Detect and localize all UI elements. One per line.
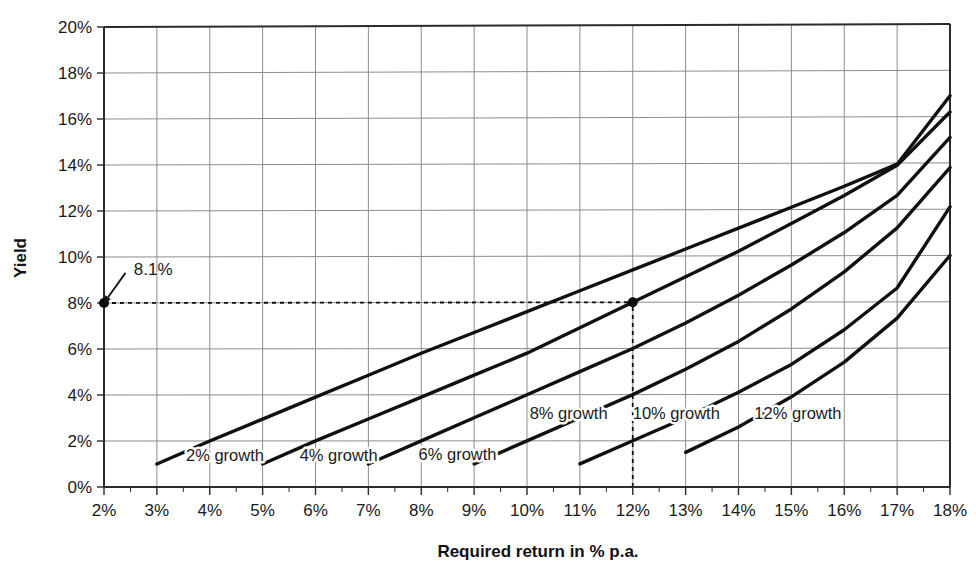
- x-tick-label: 11%: [563, 501, 596, 520]
- series-label-5: 10% growth: [633, 404, 720, 422]
- annotation-label: 8.1%: [134, 260, 173, 279]
- y-tick-label: 8%: [67, 294, 92, 313]
- x-tick-label: 17%: [880, 501, 914, 520]
- x-tick-label: 10%: [510, 501, 544, 520]
- series-label-2: 4% growth: [300, 446, 378, 464]
- series-label-4: 8% growth: [530, 404, 608, 422]
- y-tick-label: 10%: [58, 248, 92, 267]
- series-label-3: 6% growth: [419, 445, 497, 463]
- x-tick-label: 7%: [356, 501, 381, 520]
- x-tick-label: 8%: [409, 501, 434, 520]
- marker-intersection: [628, 297, 638, 307]
- y-axis-title: Yield: [11, 238, 30, 278]
- x-tick-label: 2%: [92, 501, 117, 520]
- x-tick-label: 16%: [827, 501, 861, 520]
- x-tick-label: 12%: [616, 501, 650, 520]
- chart-root: 2%3%4%5%6%7%8%9%10%11%12%13%14%15%16%17%…: [0, 0, 976, 577]
- x-axis-title: Required return in % p.a.: [437, 542, 638, 561]
- x-tick-label: 15%: [774, 501, 808, 520]
- series-label-1: 2% growth: [186, 446, 264, 464]
- y-tick-label: 0%: [67, 478, 92, 497]
- y-tick-label: 2%: [67, 432, 92, 451]
- x-tick-label: 13%: [669, 501, 703, 520]
- x-tick-label: 6%: [303, 501, 328, 520]
- y-tick-label: 16%: [58, 110, 92, 129]
- yield-vs-required-return-chart: 2%3%4%5%6%7%8%9%10%11%12%13%14%15%16%17%…: [0, 0, 976, 577]
- chart-background: [0, 0, 976, 577]
- x-tick-label: 3%: [145, 501, 170, 520]
- x-tick-label: 5%: [250, 501, 275, 520]
- y-tick-label: 14%: [58, 156, 92, 175]
- series-label-6: 12% growth: [754, 404, 841, 422]
- y-tick-label: 6%: [67, 340, 92, 359]
- x-tick-label: 14%: [721, 501, 755, 520]
- x-tick-label: 18%: [933, 501, 967, 520]
- x-tick-label: 9%: [462, 501, 487, 520]
- y-tick-label: 18%: [58, 64, 92, 83]
- x-tick-label: 4%: [197, 501, 222, 520]
- y-tick-label: 20%: [58, 18, 92, 37]
- y-tick-label: 4%: [67, 386, 92, 405]
- y-tick-label: 12%: [58, 202, 92, 221]
